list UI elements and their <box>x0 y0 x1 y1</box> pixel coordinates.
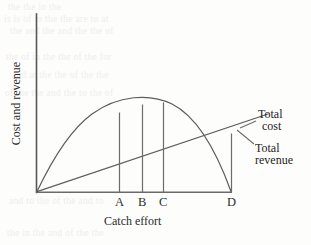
figure-container: the the in the is is of to the the are t… <box>0 0 311 245</box>
tick-label-b: B <box>138 196 146 209</box>
total-revenue-label: Total revenue <box>255 142 293 167</box>
total-revenue-label-line2: revenue <box>255 154 293 166</box>
total-cost-label: Total cost <box>258 108 283 133</box>
y-axis-title: Cost and revenue <box>9 54 24 154</box>
total-revenue-curve <box>37 97 231 191</box>
tick-label-d: D <box>227 196 236 209</box>
tick-label-a: A <box>115 196 124 209</box>
tick-label-c: C <box>159 196 167 209</box>
total-cost-label-line2: cost <box>258 120 283 132</box>
x-axis-title: Catch effort <box>104 214 161 229</box>
total-revenue-leader-line <box>237 130 254 144</box>
total-cost-line <box>37 114 268 192</box>
